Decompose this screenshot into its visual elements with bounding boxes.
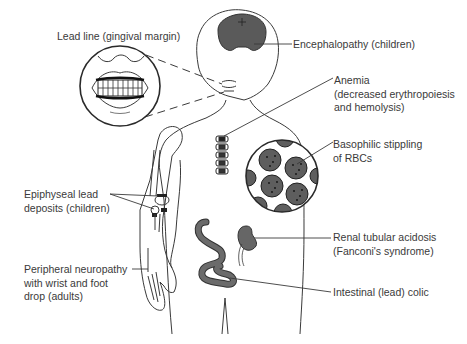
anemia-leader	[224, 78, 333, 136]
torso-outline-right	[250, 100, 304, 334]
label-epiphyseal: Epiphyseal lead deposits (children)	[24, 188, 110, 215]
label-encephalopathy: Encephalopathy (children)	[293, 38, 415, 52]
label-lead-line: Lead line (gingival margin)	[57, 30, 180, 44]
rbc-magnifier	[240, 129, 326, 222]
colic-leader	[230, 278, 331, 292]
hand-fingers	[148, 272, 160, 302]
face-mouth	[222, 81, 236, 92]
label-intestinal-colic: Intestinal (lead) colic	[333, 286, 429, 300]
epiphyseal-deposit-joint	[151, 194, 169, 217]
label-basophilic-stippling: Basophilic stippling of RBCs	[333, 138, 422, 165]
arm-outline	[140, 127, 182, 311]
label-anemia: Anemia (decreased erythropoiesis and hem…	[334, 74, 455, 115]
torso-outline	[159, 100, 226, 334]
label-neuropathy: Peripheral neuropathy with wrist and foo…	[24, 263, 127, 304]
mouth-magnifier	[80, 46, 160, 126]
epiphyseal-leader	[110, 194, 158, 209]
vertebrae-icon	[216, 136, 228, 174]
arm-inner-line	[171, 160, 181, 268]
lead-poisoning-diagram: Lead line (gingival margin) Encephalopat…	[0, 0, 467, 344]
label-renal: Renal tubular acidosis (Fanconi's syndro…	[333, 231, 436, 258]
leg-gap	[222, 298, 228, 334]
